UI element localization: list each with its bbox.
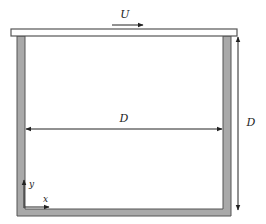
x-axis-label: x <box>43 194 48 204</box>
y-axis-label: y <box>28 179 35 189</box>
height-label: D <box>246 116 256 129</box>
moving-lid <box>11 29 237 36</box>
velocity-label: U <box>120 8 130 21</box>
cavity-diagram: U D D y x <box>0 0 266 224</box>
width-label: D <box>119 112 129 125</box>
cavity-walls <box>17 36 231 216</box>
